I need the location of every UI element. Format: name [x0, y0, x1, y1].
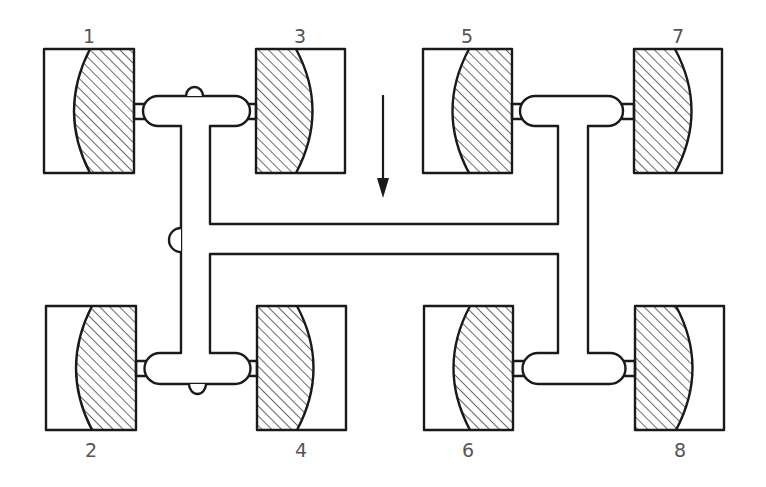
wheel-label-8: 8: [674, 441, 686, 460]
wheel-7: [634, 49, 722, 173]
wheel-3: [256, 49, 345, 173]
direction-arrow-icon: [377, 95, 389, 198]
wheel-label-2: 2: [85, 441, 97, 460]
axle-diagram: 1 3 5 7 2 4 6 8: [0, 0, 766, 487]
wheel-8: [635, 306, 724, 430]
wheel-label-7: 7: [672, 27, 684, 46]
wheel-label-5: 5: [461, 27, 473, 46]
axle-frame: [143, 96, 626, 384]
wheel-2: [46, 306, 136, 430]
wheel-6: [424, 306, 513, 430]
wheel-5: [423, 49, 512, 173]
wheel-label-4: 4: [295, 441, 307, 460]
wheel-label-6: 6: [462, 441, 474, 460]
wheel-1: [44, 49, 134, 173]
wheel-label-3: 3: [294, 27, 306, 46]
wheel-label-1: 1: [83, 27, 95, 46]
diagram-canvas: [0, 0, 766, 487]
wheel-4: [257, 306, 346, 430]
